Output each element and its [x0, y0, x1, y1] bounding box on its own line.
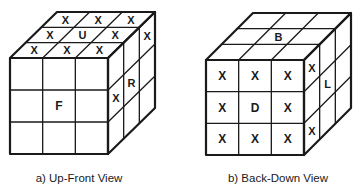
face-center-label: F [55, 99, 62, 113]
sticker-x-mark: X [308, 125, 316, 137]
cube-up-front-view: FXXXXUXXXXXXR [10, 12, 155, 154]
face-center-label: D [251, 101, 260, 115]
sticker-x-mark: X [251, 132, 259, 146]
face-center-label: U [79, 29, 87, 41]
sticker-x-mark: X [251, 69, 259, 83]
sticker-x-mark: X [94, 14, 102, 26]
sticker-x-mark: X [284, 101, 292, 115]
front-face: XXXXDXXXX [206, 60, 304, 155]
sticker-x-mark: X [46, 29, 54, 41]
sticker-x-mark: X [218, 69, 226, 83]
top-face: B [206, 13, 351, 60]
cube-back-down-view: XXXXDXXXXBXLX [206, 13, 351, 155]
sticker-x-mark: X [308, 62, 316, 74]
sticker-x-mark: X [96, 44, 104, 56]
sticker-x-mark: X [143, 30, 151, 42]
right-face: XLX [304, 13, 351, 155]
rubiks-cube-diagram: FXXXXUXXXXXXR XXXXDXXXXBXLX a) Up-Front … [0, 0, 355, 194]
front-face: F [10, 58, 108, 154]
caption-back-down-view: b) Back-Down View [228, 172, 329, 184]
sticker-x-mark: X [30, 44, 38, 56]
sticker-x-mark: X [218, 132, 226, 146]
top-face: XXXXUXXXX [10, 12, 155, 58]
sticker-x-mark: X [127, 14, 135, 26]
sticker-x-mark: X [62, 14, 70, 26]
sticker-x-mark: X [112, 92, 120, 104]
caption-up-front-view: a) Up-Front View [36, 172, 123, 184]
face-center-label: R [128, 77, 136, 89]
face-center-label: B [275, 31, 283, 43]
sticker-x-mark: X [284, 69, 292, 83]
face-center-label: L [324, 78, 331, 90]
sticker-x-mark: X [284, 132, 292, 146]
sticker-x-mark: X [218, 101, 226, 115]
sticker-x-mark: X [63, 44, 71, 56]
sticker-x-mark: X [111, 29, 119, 41]
